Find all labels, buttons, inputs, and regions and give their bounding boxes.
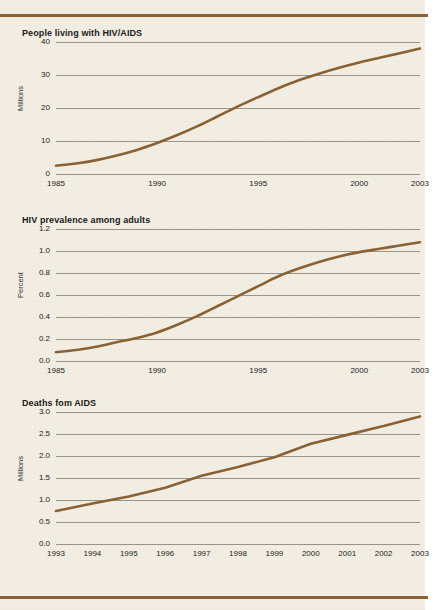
chart-hiv-prevalence-among-adults: HIV prevalence among adults Percent0.00.… xyxy=(0,215,425,393)
y-axis-tick-label: 2.0 xyxy=(20,451,50,460)
x-axis-tick-label: 2003 xyxy=(403,179,437,188)
x-axis-tick-label: 2001 xyxy=(330,549,364,558)
data-series-line xyxy=(56,229,420,361)
x-axis-line xyxy=(56,544,420,545)
x-axis-tick-label: 2000 xyxy=(342,366,376,375)
plot-area xyxy=(56,412,420,544)
top-rule xyxy=(0,14,428,17)
y-axis-tick-label: 3.0 xyxy=(20,407,50,416)
x-axis-tick-label: 2000 xyxy=(294,549,328,558)
x-axis-tick-label: 1999 xyxy=(257,549,291,558)
y-axis-tick-label: 20 xyxy=(20,103,50,112)
y-axis-tick-label: 0.4 xyxy=(20,312,50,321)
y-axis-tick-label: 0.6 xyxy=(20,290,50,299)
x-axis-tick-label: 2003 xyxy=(403,549,437,558)
chart-people-living-with-hiv-aids: People living with HIV/AIDS Millions0102… xyxy=(0,28,425,206)
x-axis-tick-label: 1995 xyxy=(241,179,275,188)
y-axis-tick-label: 10 xyxy=(20,136,50,145)
x-axis-tick-label: 1990 xyxy=(140,179,174,188)
plot-area xyxy=(56,42,420,174)
x-axis-tick-label: 1995 xyxy=(112,549,146,558)
y-axis-tick-label: 0 xyxy=(20,169,50,178)
y-axis-tick-label: 30 xyxy=(20,70,50,79)
x-axis-line xyxy=(56,361,420,362)
chart-deaths-from-aids: Deaths fom AIDS Millions0.00.51.01.52.02… xyxy=(0,398,425,583)
y-axis-tick-label: 1.0 xyxy=(20,246,50,255)
y-axis-tick-label: 0.5 xyxy=(20,517,50,526)
y-axis-tick-label: 0.2 xyxy=(20,334,50,343)
x-axis-tick-label: 1985 xyxy=(39,366,73,375)
y-axis-tick-label: 1.0 xyxy=(20,495,50,504)
x-axis-tick-label: 1997 xyxy=(185,549,219,558)
x-axis-tick-label: 1994 xyxy=(75,549,109,558)
y-axis-tick-label: 0.8 xyxy=(20,268,50,277)
x-axis-tick-label: 1993 xyxy=(39,549,73,558)
plot-area xyxy=(56,229,420,361)
x-axis-tick-label: 2002 xyxy=(367,549,401,558)
x-axis-tick-label: 1985 xyxy=(39,179,73,188)
x-axis-tick-label: 2003 xyxy=(403,366,437,375)
x-axis-tick-label: 1996 xyxy=(148,549,182,558)
x-axis-tick-label: 1990 xyxy=(140,366,174,375)
data-series-line xyxy=(56,42,420,174)
bottom-rule xyxy=(0,596,428,599)
figure-page: People living with HIV/AIDS Millions0102… xyxy=(0,0,442,610)
y-axis-tick-label: 1.5 xyxy=(20,473,50,482)
y-axis-tick-label: 0.0 xyxy=(20,539,50,548)
x-axis-tick-label: 1995 xyxy=(241,366,275,375)
y-axis-tick-label: 0.0 xyxy=(20,356,50,365)
x-axis-tick-label: 1998 xyxy=(221,549,255,558)
y-axis-tick-label: 1.2 xyxy=(20,224,50,233)
y-axis-tick-label: 40 xyxy=(20,37,50,46)
data-series-line xyxy=(56,412,420,544)
y-axis-tick-label: 2.5 xyxy=(20,429,50,438)
x-axis-line xyxy=(56,174,420,175)
x-axis-tick-label: 2000 xyxy=(342,179,376,188)
